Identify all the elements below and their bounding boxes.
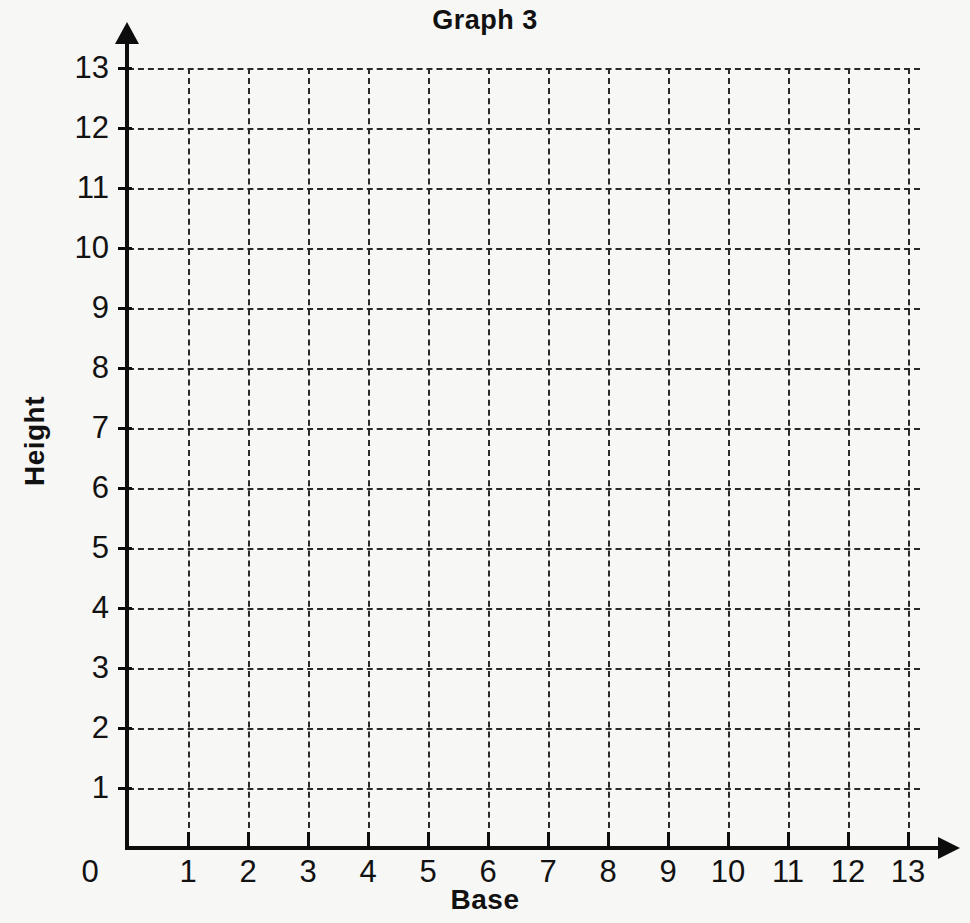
- y-tick-mark: [118, 487, 132, 490]
- x-tick-mark: [187, 832, 190, 846]
- y-tick-label: 5: [49, 532, 109, 563]
- y-tick-mark: [118, 727, 132, 730]
- x-tick-mark: [427, 832, 430, 846]
- x-tick-mark: [907, 832, 910, 846]
- y-tick-mark: [118, 127, 132, 130]
- y-tick-mark: [118, 547, 132, 550]
- x-tick-mark: [607, 832, 610, 846]
- x-tick-mark: [307, 832, 310, 846]
- y-tick-label: 4: [49, 592, 109, 623]
- y-tick-label: 3: [49, 652, 109, 683]
- gridline-horizontal: [128, 68, 920, 70]
- gridline-horizontal: [128, 248, 920, 250]
- gridline-vertical: [248, 68, 250, 848]
- x-tick-mark: [667, 832, 670, 846]
- gridline-horizontal: [128, 428, 920, 430]
- plot-area: [128, 68, 920, 848]
- gridline-horizontal: [128, 188, 920, 190]
- y-tick-mark: [118, 367, 132, 370]
- gridline-vertical: [608, 68, 610, 848]
- x-tick-mark: [487, 832, 490, 846]
- x-tick-mark: [847, 832, 850, 846]
- y-tick-mark: [118, 667, 132, 670]
- x-tick-mark: [547, 832, 550, 846]
- y-tick-label: 12: [49, 112, 109, 143]
- x-tick-mark: [367, 832, 370, 846]
- y-tick-label: 13: [49, 52, 109, 83]
- y-tick-label: 2: [49, 712, 109, 743]
- y-tick-label: 6: [49, 472, 109, 503]
- x-tick-mark: [247, 832, 250, 846]
- y-axis-title: Height: [19, 381, 51, 501]
- x-tick-label: 13: [873, 856, 943, 887]
- gridline-horizontal: [128, 668, 920, 670]
- x-tick-mark: [727, 832, 730, 846]
- y-tick-label: 11: [49, 172, 109, 203]
- gridline-horizontal: [128, 308, 920, 310]
- gridline-vertical: [308, 68, 310, 848]
- graph-worksheet-page: Graph 3 12345678910111213 01234567891011…: [0, 0, 970, 923]
- x-axis-title: Base: [0, 884, 970, 916]
- y-tick-mark: [118, 307, 132, 310]
- y-tick-mark: [118, 607, 132, 610]
- gridline-horizontal: [128, 788, 920, 790]
- gridline-vertical: [908, 68, 910, 848]
- gridline-vertical: [668, 68, 670, 848]
- gridline-vertical: [788, 68, 790, 848]
- gridline-horizontal: [128, 548, 920, 550]
- page-title: Graph 3: [0, 5, 970, 36]
- y-tick-label: 9: [49, 292, 109, 323]
- gridline-horizontal: [128, 128, 920, 130]
- x-axis-line: [125, 846, 945, 850]
- y-tick-label: 1: [49, 772, 109, 803]
- gridline-vertical: [848, 68, 850, 848]
- y-tick-mark: [118, 67, 132, 70]
- gridline-horizontal: [128, 368, 920, 370]
- x-tick-mark: [787, 832, 790, 846]
- x-tick-label: 0: [55, 856, 125, 887]
- y-tick-mark: [118, 787, 132, 790]
- y-tick-mark: [118, 187, 132, 190]
- gridline-vertical: [728, 68, 730, 848]
- y-tick-label: 10: [49, 232, 109, 263]
- y-axis-tick-labels: 12345678910111213: [45, 0, 109, 923]
- gridline-horizontal: [128, 608, 920, 610]
- gridline-vertical: [428, 68, 430, 848]
- y-tick-mark: [118, 247, 132, 250]
- y-tick-mark: [118, 427, 132, 430]
- y-tick-label: 8: [49, 352, 109, 383]
- gridline-horizontal: [128, 728, 920, 730]
- arrow-up-icon: [115, 22, 139, 44]
- gridline-vertical: [188, 68, 190, 848]
- gridline-horizontal: [128, 488, 920, 490]
- y-tick-label: 7: [49, 412, 109, 443]
- gridline-vertical: [368, 68, 370, 848]
- gridline-vertical: [488, 68, 490, 848]
- gridline-vertical: [548, 68, 550, 848]
